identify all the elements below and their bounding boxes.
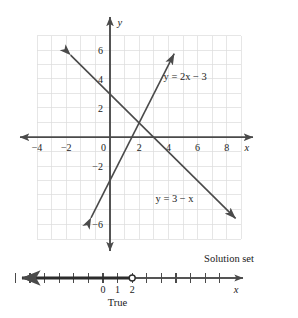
x-tick-label: −2 (61, 142, 72, 153)
x-tick-label: 8 (224, 142, 229, 153)
open-circle-endpoint (129, 275, 135, 281)
x-tick-label: 2 (137, 142, 142, 153)
equation-label-line1: y = 2x − 3 (164, 71, 207, 82)
solution-set-label: Solution set (204, 253, 254, 264)
number-line-label-1: 1 (115, 284, 120, 295)
number-line-label-0: 0 (101, 284, 106, 295)
number-line-axis-variable: x (233, 284, 239, 295)
x-tick-label: 6 (195, 142, 200, 153)
math-figure: −4 −2 0 2 4 6 8 6 4 2 −2 −6 x y y = 2x −… (0, 0, 298, 318)
x-axis-variable-label: x (244, 142, 250, 153)
y-tick-label: −2 (92, 161, 103, 172)
axes (20, 17, 253, 251)
x-tick-label: −4 (32, 142, 43, 153)
y-axis-variable-label: y (117, 17, 123, 28)
y-tick-label: −6 (92, 219, 103, 230)
number-line-label-2: 2 (130, 284, 135, 295)
equation-label-line2: y = 3 − x (156, 193, 195, 204)
number-line: 0 1 2 x True (15, 273, 243, 308)
y-tick-label: 6 (98, 45, 103, 56)
true-caption: True (108, 297, 128, 308)
x-tick-labels: −4 −2 0 2 4 6 8 (32, 142, 230, 153)
graph-svg: −4 −2 0 2 4 6 8 6 4 2 −2 −6 x y y = 2x −… (0, 0, 298, 318)
x-tick-label-origin: 0 (101, 142, 106, 153)
y-tick-label: 2 (98, 103, 103, 114)
